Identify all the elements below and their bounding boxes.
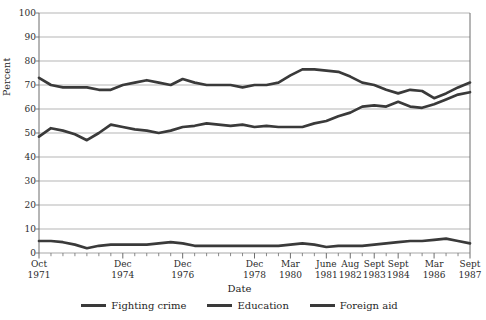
x-tick-label-month: Sept: [378, 259, 418, 270]
legend-color-swatch: [207, 304, 232, 307]
legend-item: Fighting crime: [81, 300, 186, 311]
x-tick-label-month: Dec: [163, 259, 203, 270]
x-tick-label-month: Dec: [103, 259, 143, 270]
x-tick-label: Dec1974: [103, 259, 143, 280]
x-tick-label-year: 1987: [450, 270, 486, 281]
series-line-2: [39, 239, 470, 249]
legend-label: Foreign aid: [340, 300, 398, 311]
x-tick-label-year: 1974: [103, 270, 143, 281]
legend-color-swatch: [310, 304, 335, 307]
x-tick-label-year: 1976: [163, 270, 203, 281]
x-tick-label: Dec1978: [235, 259, 275, 280]
series-line-0: [39, 69, 470, 98]
chart-legend: Fighting crimeEducationForeign aid: [0, 300, 479, 311]
plot-area: [0, 0, 479, 262]
x-tick-label-year: 1986: [414, 270, 454, 281]
legend-color-swatch: [81, 304, 106, 307]
x-tick-label: Mar1986: [414, 259, 454, 280]
x-tick-label: Mar1980: [270, 259, 310, 280]
x-tick-label-month: Oct: [19, 259, 59, 270]
x-tick-label: Sept1987: [450, 259, 486, 280]
x-axis-title: Date: [0, 283, 479, 294]
x-tick-label-month: Sept: [450, 259, 486, 270]
x-tick-label: Sept1984: [378, 259, 418, 280]
legend-label: Fighting crime: [111, 300, 186, 311]
x-tick-label-year: 1971: [19, 270, 59, 281]
x-tick-label-month: Mar: [414, 259, 454, 270]
x-tick-label: Dec1976: [163, 259, 203, 280]
x-tick-label-year: 1984: [378, 270, 418, 281]
x-tick-label-month: Mar: [270, 259, 310, 270]
legend-label: Education: [237, 300, 288, 311]
legend-item: Foreign aid: [310, 300, 398, 311]
x-tick-label-year: 1980: [270, 270, 310, 281]
legend-item: Education: [207, 300, 288, 311]
x-tick-label-month: Dec: [235, 259, 275, 270]
x-tick-label: Oct1971: [19, 259, 59, 280]
x-tick-label-year: 1978: [235, 270, 275, 281]
